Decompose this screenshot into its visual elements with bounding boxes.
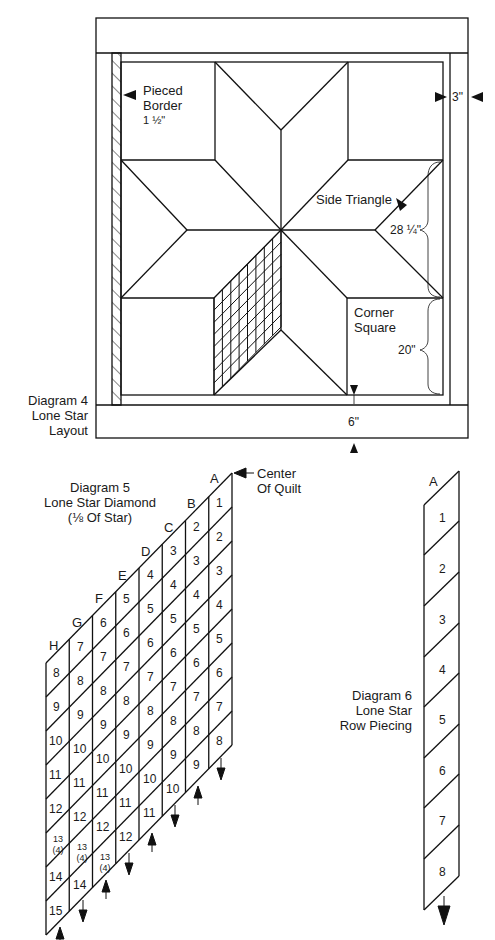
row-cell-4: 4 — [439, 663, 446, 678]
row-cell-6: 6 — [439, 764, 446, 779]
row-direction-arrow — [438, 906, 450, 925]
row-cell-2: 2 — [439, 562, 446, 577]
row-cell-8: 8 — [439, 865, 446, 880]
diagram-6-row-piecing — [0, 0, 495, 940]
row-cell-5: 5 — [439, 713, 446, 728]
row-cell-7: 7 — [439, 814, 446, 829]
diagram-6-column-letter: A — [429, 474, 438, 489]
diagram-6-title: Diagram 6 Lone Star Row Piecing — [340, 688, 412, 733]
row-cell-1: 1 — [439, 511, 446, 526]
row-cell-3: 3 — [439, 613, 446, 628]
